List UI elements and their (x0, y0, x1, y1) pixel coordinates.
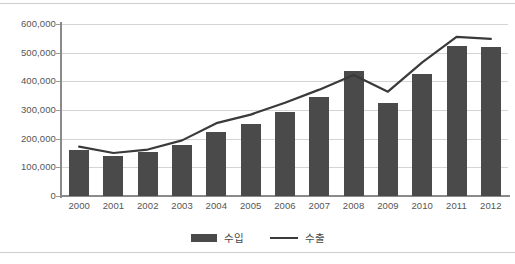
chart-legend: 수입 수출 (0, 230, 515, 245)
x-axis-tick-label: 2002 (131, 200, 165, 211)
y-axis-tick-label: 200,000 (2, 133, 56, 144)
bar (138, 152, 158, 196)
y-axis-tick-label: 600,000 (2, 18, 56, 29)
x-axis-labels: 2000200120022003200420052006200720082009… (62, 200, 508, 216)
y-axis-tick-label: 300,000 (2, 104, 56, 115)
x-axis-tick-label: 2004 (199, 200, 233, 211)
y-axis-labels: 0100,000200,000300,000400,000500,000600,… (0, 24, 56, 196)
x-axis-tick-label: 2007 (302, 200, 336, 211)
x-axis-tick-label: 2000 (62, 200, 96, 211)
bar (378, 103, 398, 196)
frame-top-border (0, 3, 515, 4)
bar (309, 97, 329, 196)
line-swatch-icon (270, 237, 298, 239)
bar-swatch-icon (191, 234, 217, 242)
bar (344, 71, 364, 196)
x-axis-tick-label: 2008 (336, 200, 370, 211)
bar (206, 132, 226, 196)
y-axis-tick-label: 400,000 (2, 75, 56, 86)
bar (412, 74, 432, 196)
legend-item-import: 수입 (191, 230, 244, 245)
legend-item-export: 수출 (270, 230, 325, 245)
x-axis-tick-label: 2003 (165, 200, 199, 211)
x-axis-tick-label: 2010 (405, 200, 439, 211)
bar (447, 46, 467, 196)
x-axis-tick-label: 2005 (234, 200, 268, 211)
x-axis-tick-label: 2012 (474, 200, 508, 211)
y-axis-tick-label: 100,000 (2, 161, 56, 172)
legend-label-export: 수출 (305, 230, 325, 245)
frame-bottom-border (0, 252, 515, 253)
chart-container: 0100,000200,000300,000400,000500,000600,… (0, 0, 515, 264)
bar (275, 112, 295, 196)
bar (69, 150, 89, 196)
y-axis-tick-label: 0 (2, 190, 56, 201)
bar (481, 47, 501, 196)
x-axis-tick-label: 2011 (439, 200, 473, 211)
x-axis-tick-label: 2009 (371, 200, 405, 211)
bar (103, 156, 123, 196)
bar (241, 124, 261, 196)
y-axis-tick-label: 500,000 (2, 47, 56, 58)
legend-label-import: 수입 (224, 230, 244, 245)
x-axis-tick-label: 2006 (268, 200, 302, 211)
x-axis-tick-label: 2001 (96, 200, 130, 211)
bar-series-import (62, 24, 508, 196)
bar (172, 145, 192, 196)
